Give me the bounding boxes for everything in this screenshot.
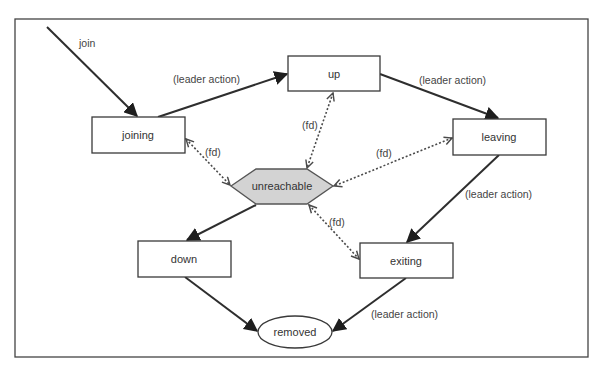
label-fd-joining: (fd) [205, 146, 221, 158]
node-exiting-label: exiting [390, 255, 422, 267]
state-diagram: joining up leaving unreachable down exit… [0, 0, 603, 383]
node-down-label: down [171, 253, 197, 265]
label-fd-up: (fd) [302, 119, 318, 131]
node-leaving-label: leaving [482, 131, 517, 143]
node-leaving: leaving [453, 119, 546, 155]
label-leaving-exiting: (leader action) [465, 188, 532, 200]
node-up-label: up [328, 68, 340, 80]
label-up-leaving: (leader action) [419, 74, 486, 86]
node-joining-label: joining [121, 129, 154, 141]
node-up: up [288, 56, 380, 91]
label-join: join [78, 37, 96, 49]
node-joining: joining [92, 117, 185, 153]
node-down: down [138, 241, 231, 277]
node-unreachable-label: unreachable [252, 180, 313, 192]
label-fd-exiting: (fd) [329, 216, 345, 228]
label-fd-leaving: (fd) [376, 147, 392, 159]
label-exiting-removed: (leader action) [371, 308, 438, 320]
node-removed: removed [258, 316, 332, 348]
label-joining-up: (leader action) [173, 73, 240, 85]
node-removed-label: removed [274, 326, 317, 338]
node-exiting: exiting [360, 243, 453, 278]
